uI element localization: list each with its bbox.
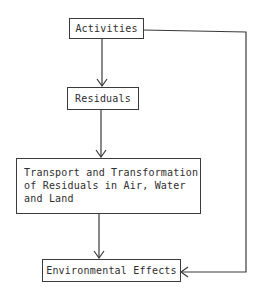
node-residuals: Residuals xyxy=(67,87,139,110)
connector-lines xyxy=(0,0,257,297)
node-transport-line-3: and Land xyxy=(24,192,200,205)
node-environmental-effects: Environmental Effects xyxy=(42,259,181,282)
node-effects-label: Environmental Effects xyxy=(46,265,177,276)
flowchart-canvas: Activities Residuals Transport and Trans… xyxy=(0,0,257,297)
edge-activities-effects-bypass xyxy=(143,30,246,272)
node-transport: Transport and Transformation of Residual… xyxy=(16,158,201,214)
node-activities-label: Activities xyxy=(75,23,137,34)
node-residuals-label: Residuals xyxy=(75,93,131,104)
node-activities: Activities xyxy=(69,18,144,39)
node-transport-line-1: Transport and Transformation xyxy=(24,166,200,179)
node-transport-line-2: of Residuals in Air, Water xyxy=(24,179,200,192)
